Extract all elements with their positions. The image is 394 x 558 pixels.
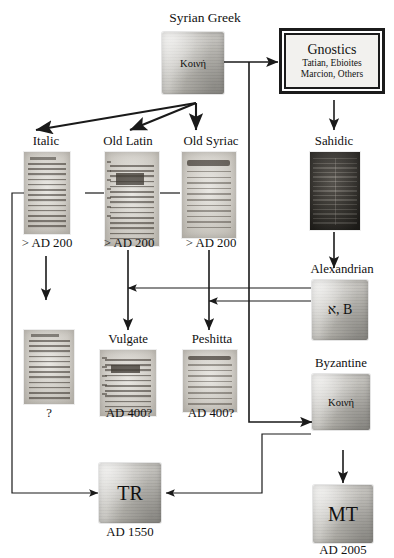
edge-byzantine-tr	[166, 434, 311, 493]
node-byzantine-text: Κοινή	[312, 397, 370, 408]
node-sahidic[interactable]	[310, 152, 360, 230]
edge-syrian-italic	[36, 103, 196, 130]
manuscript-vignette	[24, 152, 70, 234]
label-sahidic: Sahidic	[294, 134, 374, 149]
date-old-latin: > AD 200	[88, 236, 170, 251]
label-old-latin: Old Latin	[88, 134, 168, 149]
node-syrian-greek-text: Κοινή	[162, 58, 224, 69]
gnostics-line1: Tatian, Ebioites	[302, 58, 362, 69]
label-vulgate: Vulgate	[88, 332, 168, 347]
manuscript-vignette	[310, 152, 360, 230]
manuscript-vignette	[24, 330, 74, 404]
manuscript-vignette	[182, 152, 236, 238]
date-vulgate: AD 400?	[88, 406, 170, 421]
label-byzantine: Byzantine	[294, 356, 388, 371]
date-mt: AD 2005	[302, 543, 384, 558]
node-italic[interactable]	[24, 152, 70, 234]
node-alexandrian[interactable]: א, B	[312, 280, 368, 340]
node-peshitta[interactable]	[183, 350, 237, 412]
node-old-syriac[interactable]	[182, 152, 236, 238]
gnostics-title: Gnostics	[308, 42, 357, 58]
label-peshitta: Peshitta	[172, 332, 252, 347]
node-gnostics[interactable]: Gnostics Tatian, Ebioites Marcion, Other…	[279, 28, 385, 94]
node-byzantine[interactable]: Κοινή	[312, 374, 370, 430]
date-tr: AD 1550	[89, 525, 171, 540]
date-italic: > AD 200	[6, 236, 88, 251]
node-alexandrian-text: א, B	[312, 302, 368, 318]
node-syrian-greek[interactable]: Κοινή	[162, 32, 224, 94]
node-mt-text: MT	[313, 503, 373, 526]
label-old-syriac: Old Syriac	[168, 134, 254, 149]
manuscript-vignette	[105, 152, 159, 246]
node-unknown-italic-descendant[interactable]	[24, 330, 74, 404]
gnostics-line2: Marcion, Others	[301, 69, 363, 80]
date-peshitta: AD 400?	[170, 406, 252, 421]
gnostics-inner-frame: Gnostics Tatian, Ebioites Marcion, Other…	[282, 31, 382, 91]
gnostics-face: Gnostics Tatian, Ebioites Marcion, Other…	[286, 35, 378, 87]
edge-syrian-oldlatin	[130, 103, 196, 130]
date-old-syriac: > AD 200	[170, 236, 252, 251]
node-tr-text: TR	[99, 482, 161, 505]
date-unknown-italic-descendant: ?	[10, 406, 88, 421]
manuscript-vignette	[183, 350, 237, 412]
label-italic: Italic	[6, 134, 86, 149]
node-tr[interactable]: TR	[99, 463, 161, 523]
diagram-canvas: Syrian Greek Κοινή Gnostics Tatian, Ebio…	[0, 0, 394, 558]
label-syrian-greek: Syrian Greek	[150, 10, 260, 26]
label-alexandrian: Alexandrian	[294, 262, 390, 277]
node-old-latin[interactable]	[105, 152, 159, 246]
node-mt[interactable]: MT	[313, 485, 373, 543]
